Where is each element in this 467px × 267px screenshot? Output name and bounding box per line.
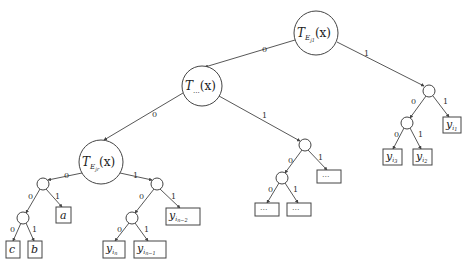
leaf-y-in-1: yin−1: [134, 241, 166, 258]
edge-smallb-yin2: [160, 189, 180, 208]
edge-mid-midsmall: [219, 96, 300, 141]
edge-label-1: 1: [443, 97, 448, 106]
edge-mid-left: [104, 93, 183, 140]
leaf-y-i2: yi2: [413, 149, 432, 165]
leaf-ellipsis: ···: [255, 203, 279, 216]
leaf-c: c: [6, 241, 20, 258]
edge-label-0: 0: [262, 45, 267, 54]
leaf-nodes: yi1 yi3 yi2 ··· ··· ··· a c: [6, 117, 461, 258]
node-mid-sub: [276, 172, 288, 184]
edge-label-1: 1: [293, 185, 298, 194]
edge-label-0: 0: [152, 110, 157, 119]
node-left: TEjr(x): [79, 140, 123, 184]
node-left-sub-a: [17, 212, 29, 224]
leaf-y-i3: yi3: [383, 149, 402, 165]
edge-label-1: 1: [364, 49, 369, 58]
node-right-small: [423, 85, 435, 97]
svg-text:T...(x): T...(x): [185, 79, 216, 95]
node-left-small-a: [37, 178, 49, 190]
edge-label-1: 1: [262, 111, 267, 120]
edge-root-mid: [205, 40, 295, 67]
leaf-y-in-2: yin−2: [166, 208, 200, 225]
leaf-ellipsis: ···: [287, 203, 311, 216]
svg-text:b: b: [31, 243, 38, 256]
node-left-small-b: [151, 178, 163, 190]
edge-labels: 0 1 0 1 0 1 0 1 0 1 0 1 0 1 0 1 0 1 0 1 …: [10, 45, 448, 234]
svg-text:···: ···: [260, 205, 268, 214]
edge-label-1: 1: [133, 171, 138, 180]
edge-label-1: 1: [55, 192, 60, 201]
leaf-b: b: [28, 241, 42, 258]
node-mid-small: [299, 139, 311, 151]
edge-label-0: 0: [10, 225, 15, 234]
edge-label-1: 1: [32, 225, 37, 234]
svg-text:···: ···: [322, 172, 330, 181]
edge-label-1: 1: [144, 225, 149, 234]
leaf-y-i1: yi1: [443, 117, 461, 133]
node-left-sub-b: [126, 212, 138, 224]
edge-label-1: 1: [418, 130, 423, 139]
node-root: TEj1(x): [294, 11, 338, 55]
svg-text:···: ···: [292, 205, 300, 214]
edge-label-0: 0: [411, 97, 416, 106]
edge-label-0: 0: [288, 156, 293, 165]
leaf-y-in: yin: [103, 241, 125, 258]
edge-label-0: 0: [268, 185, 273, 194]
edge-label-1: 1: [171, 192, 176, 201]
edge-label-0: 0: [394, 130, 399, 139]
decision-tree-diagram: 0 1 0 1 0 1 0 1 0 1 0 1 0 1 0 1 0 1 0 1 …: [0, 0, 467, 267]
svg-text:c: c: [9, 243, 15, 256]
edge-label-0: 0: [139, 192, 144, 201]
leaf-a: a: [56, 207, 71, 223]
edge-label-0: 0: [64, 171, 69, 180]
edge-label-0: 0: [28, 192, 33, 201]
edge-root-right: [337, 42, 424, 86]
node-mid: T...(x): [182, 66, 222, 106]
edge-smallb-subb: [135, 189, 154, 213]
tree-edges: [13, 40, 449, 241]
edge-label-0: 0: [117, 225, 122, 234]
svg-text:a: a: [60, 209, 67, 222]
internal-nodes: [17, 85, 435, 224]
leaf-ellipsis: ···: [317, 170, 341, 183]
edge-label-1: 1: [318, 153, 323, 162]
node-right-sub: [401, 117, 413, 129]
